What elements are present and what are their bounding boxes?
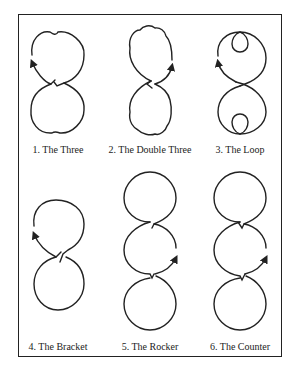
figure-the-three [31,32,84,133]
label-the-rocker: 5. The Rocker [105,341,195,352]
label-the-double-three: 2. The Double Three [105,144,195,155]
figure-the-rocker [124,172,176,330]
label-the-three: 1. The Three [13,144,103,155]
skating-figures-diagram [0,0,294,372]
figure-the-counter [214,172,266,330]
label-the-loop: 3. The Loop [195,144,285,155]
figure-the-loop [218,32,266,134]
figure-the-double-three [130,26,172,135]
figure-the-bracket [34,200,84,310]
label-the-bracket: 4. The Bracket [13,341,103,352]
label-the-counter: 6. The Counter [195,341,285,352]
